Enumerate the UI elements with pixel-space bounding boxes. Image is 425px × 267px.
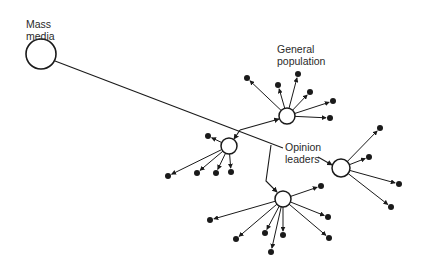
leader-bottom-node (275, 191, 291, 207)
general-population-dot (280, 232, 286, 238)
general-population-dot (326, 235, 332, 241)
general-population-dot (330, 98, 336, 104)
leader-left-follower-arrow (212, 138, 222, 143)
general-population-dot (295, 71, 301, 77)
opinion-leaders-label: Opinion leaders (285, 141, 321, 165)
leader-upper-follower-arrow (293, 95, 308, 110)
general-population-dot (165, 173, 171, 179)
leader-upper-node (279, 108, 295, 124)
general-population-dot (318, 183, 324, 189)
general-population-label: General population (277, 43, 325, 67)
leader-right-node (332, 159, 350, 177)
leader-left-incoming-arrow (234, 130, 240, 139)
mass-media-node (26, 39, 56, 69)
two-step-flow-diagram (0, 0, 425, 267)
leader-upper-follower-arrow (295, 116, 326, 117)
leader-right-follower-arrow (350, 170, 395, 183)
general-population-dot (233, 236, 239, 242)
leader-left-follower-arrow (200, 151, 223, 170)
leader-left-follower-arrow (218, 153, 226, 169)
general-population-dot (275, 82, 281, 88)
general-population-dot (213, 170, 219, 176)
general-population-dot (228, 169, 234, 175)
leader-bottom-follower-arrow (291, 187, 318, 196)
leader-upper-follower-arrow (279, 89, 285, 108)
mass-media-label: Mass media (26, 18, 55, 42)
leader-upper-follower-arrow (289, 78, 297, 108)
leader-bottom-incoming-arrow (266, 145, 277, 192)
leader-right-follower-arrow (347, 131, 377, 162)
general-population-dot (207, 217, 213, 223)
general-population-dot (366, 154, 372, 160)
leader-left-node (221, 138, 237, 154)
general-population-dot (396, 181, 402, 187)
general-population-dot (327, 115, 333, 121)
general-population-dot (377, 125, 383, 131)
leader-left-follower-arrow (230, 154, 231, 168)
general-population-dot (268, 249, 274, 255)
connection-lines (55, 61, 395, 248)
leader-bottom-follower-arrow (290, 202, 324, 216)
leader-upper-incoming-arrow (240, 119, 279, 130)
general-population-dot (325, 214, 331, 220)
leader-bottom-follower-arrow (214, 201, 275, 219)
leader-right-follower-arrow (348, 174, 388, 205)
general-population-dot (244, 75, 250, 81)
general-population-dot (262, 230, 268, 236)
leader-bottom-follower-arrow (272, 207, 281, 248)
general-population-dot (205, 133, 211, 139)
general-population-dot (307, 89, 313, 95)
mass-media-line (55, 61, 283, 148)
general-population-dot (194, 170, 200, 176)
general-population-dot (388, 204, 394, 210)
leader-right-follower-arrow (349, 158, 365, 164)
leader-upper-follower-arrow (295, 102, 330, 113)
